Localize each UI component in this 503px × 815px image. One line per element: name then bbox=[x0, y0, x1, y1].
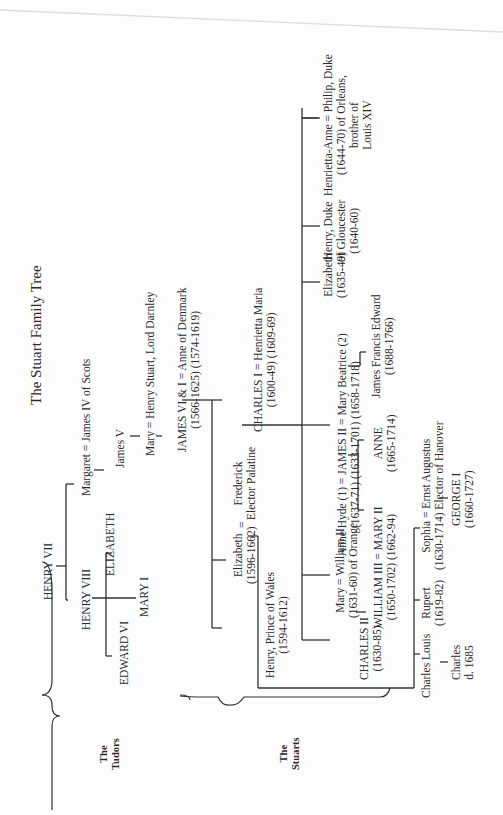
person-margaret: Margaret = James IV of Scots bbox=[80, 359, 93, 496]
document-page: The Stuart Family Tree TheTudors TheStua… bbox=[0, 0, 503, 815]
person-elizabeth-i: ELIZABETH bbox=[104, 513, 117, 576]
person-james-vi: JAMES VI & I = Anne of Denmark(1566-1625… bbox=[176, 288, 202, 452]
group-label-tudors: TheTudors bbox=[98, 738, 122, 770]
person-henry-prince-of-wales: Henry, Prince of Wales(1594-1612) bbox=[264, 572, 290, 678]
group-label-stuarts: TheStuarts bbox=[278, 737, 302, 770]
person-henry-duke-of-gloucester: Henry, Dukeof Gloucester(1640-60) bbox=[322, 200, 361, 262]
page-title: The Stuart Family Tree bbox=[30, 265, 43, 405]
person-charles-d-1685: Charlesd. 1685 bbox=[450, 645, 476, 680]
person-anne: ANNE(1665-1714) bbox=[372, 415, 398, 473]
person-william-iii: WILLIAM III = MARY II(1650-1702) (1662-9… bbox=[372, 506, 398, 628]
person-james-v: James V bbox=[114, 429, 127, 468]
person-rupert: Rupert(1619-82) bbox=[420, 580, 446, 626]
person-sophia: Sophia = Ernst Augustus(1630-1714) Elect… bbox=[420, 422, 446, 571]
person-george-i: GEORGE I(1660-1727) bbox=[450, 471, 476, 529]
person-james-ii: Anne Hyde (1) = JAMES II = Mary Beatrice… bbox=[336, 333, 362, 556]
person-henry-vii: HENRY VII bbox=[42, 543, 55, 600]
person-elizabeth-of-bohemia: Elizabeth(1596-1662) bbox=[232, 527, 258, 585]
marriage-sign: = bbox=[236, 522, 249, 529]
person-mary-i: MARY I bbox=[138, 577, 151, 617]
person-frederick: FrederickElector Palatine bbox=[232, 447, 258, 520]
person-james-francis-edward: James Francis Edward(1688-1766) bbox=[370, 295, 396, 398]
person-henrietta-anne: Henrietta-Anne = Philip, Duke(1644-70) o… bbox=[322, 54, 374, 196]
tudors-brace bbox=[42, 695, 60, 810]
person-mary-queen-of-scots: Mary = Henry Stuart, Lord Darnley bbox=[144, 292, 157, 456]
person-henry-viii: HENRY VIII bbox=[80, 569, 93, 630]
person-edward-vi: EDWARD VI bbox=[118, 621, 131, 685]
person-charles-louis: Charles Louis bbox=[420, 634, 433, 698]
person-charles-i: CHARLES I = Henrietta Maria(1600-49) (16… bbox=[252, 288, 278, 432]
